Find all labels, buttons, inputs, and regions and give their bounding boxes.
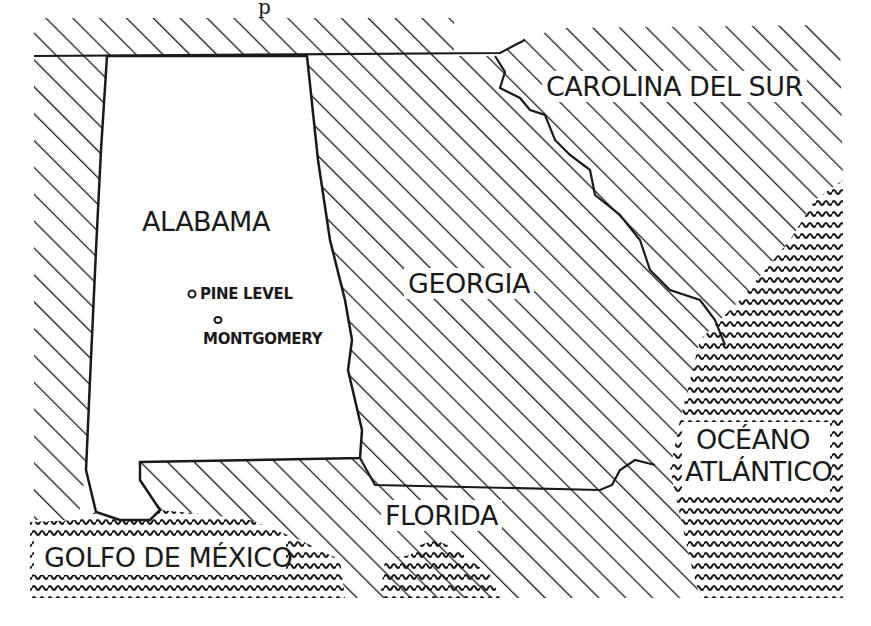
label-golfo-de-mexico: GOLFO DE MÉXICO	[44, 542, 292, 573]
label-florida: FLORIDA	[381, 500, 502, 531]
title-fragment: p	[258, 0, 271, 19]
label-montgomery: MONTGOMERY	[203, 330, 322, 348]
montgomery-marker	[215, 317, 222, 323]
region-north-strip	[34, 18, 454, 56]
pine-level-marker	[189, 291, 196, 298]
label-oceano-atlantico-line1: OCÉANO	[696, 424, 810, 455]
label-carolina-del-sur: CAROLINA DEL SUR	[542, 71, 807, 102]
label-georgia: GEORGIA	[404, 268, 534, 299]
label-oceano-atlantico-line2: ATLÁNTICO	[685, 456, 832, 487]
label-pine-level: PINE LEVEL	[200, 285, 293, 303]
label-alabama: ALABAMA	[142, 206, 270, 237]
